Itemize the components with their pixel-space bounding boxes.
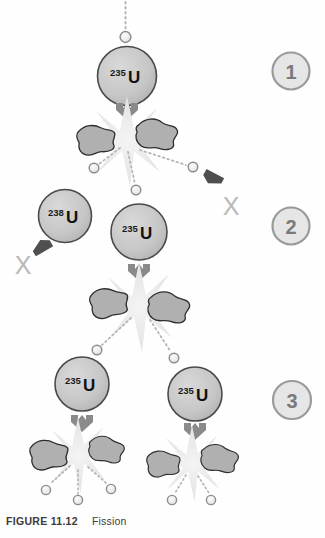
fission-chain-reaction-diagram: 235 U 1 X bbox=[0, 0, 325, 538]
figure-caption: FIGURE 11.12Fission bbox=[6, 515, 127, 527]
fission-fragment bbox=[199, 443, 240, 474]
x-mark-right: X bbox=[223, 192, 240, 220]
escape-arrow bbox=[30, 236, 53, 256]
neutron bbox=[167, 495, 176, 504]
nucleus-mass-number: 235 bbox=[110, 67, 127, 78]
nucleus-u235: 235 U bbox=[168, 367, 222, 421]
figure-caption-label: FIGURE 11.12 bbox=[6, 515, 78, 527]
neutron-trail bbox=[102, 318, 131, 345]
neutron bbox=[131, 185, 141, 195]
impact-arrow bbox=[184, 423, 206, 440]
stage-1-group: 235 U 1 bbox=[76, 2, 310, 195]
neutron-trail bbox=[51, 466, 70, 483]
nucleus-mass-number: 235 bbox=[178, 385, 195, 396]
stage-2-group: X 238 U X 235 U bbox=[15, 169, 310, 363]
nucleus-u235: 235 U bbox=[55, 357, 109, 411]
nucleus-symbol: U bbox=[128, 68, 140, 87]
nucleus-mass-number: 238 bbox=[48, 207, 64, 218]
neutron bbox=[41, 485, 50, 494]
neutron bbox=[92, 345, 102, 355]
fission-fragment bbox=[146, 450, 181, 478]
stage-badge-1: 1 bbox=[273, 53, 310, 90]
badge-number: 3 bbox=[286, 390, 297, 412]
neutron-trail bbox=[88, 467, 106, 483]
stage-badge-2: 2 bbox=[273, 208, 310, 245]
nucleus-circle bbox=[168, 367, 222, 421]
fission-fragment bbox=[135, 118, 179, 150]
badge-number: 2 bbox=[285, 216, 296, 238]
nucleus-circle bbox=[55, 357, 109, 411]
neutron bbox=[73, 495, 82, 504]
fission-fragment bbox=[146, 290, 191, 324]
nucleus-symbol: U bbox=[196, 386, 208, 405]
neutron bbox=[120, 32, 131, 43]
stage-3-group: 235 U 235 U bbox=[29, 357, 311, 505]
nucleus-u235: 235 U bbox=[111, 204, 167, 260]
nucleus-u238: 238 U bbox=[39, 190, 92, 243]
neutron bbox=[169, 353, 179, 363]
x-mark-left: X bbox=[15, 251, 32, 279]
fission-fragment bbox=[87, 434, 126, 464]
figure-caption-title: Fission bbox=[92, 515, 127, 527]
nucleus-symbol: U bbox=[140, 224, 152, 243]
nucleus-symbol: U bbox=[83, 376, 95, 395]
nucleus-mass-number: 235 bbox=[65, 375, 82, 386]
nucleus-circle bbox=[39, 190, 92, 243]
neutron bbox=[188, 162, 198, 172]
impact-arrow bbox=[71, 415, 93, 432]
neutron bbox=[206, 495, 215, 504]
neutron bbox=[89, 163, 99, 173]
nucleus-symbol: U bbox=[66, 208, 78, 227]
nucleus-circle bbox=[111, 204, 167, 260]
escape-arrow bbox=[201, 169, 224, 189]
neutron bbox=[106, 484, 115, 493]
badge-number: 1 bbox=[285, 61, 296, 83]
stage-badge-3: 3 bbox=[273, 381, 311, 419]
nucleus-mass-number: 235 bbox=[122, 223, 139, 234]
